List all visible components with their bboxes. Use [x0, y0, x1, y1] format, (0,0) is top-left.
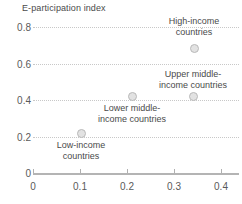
x-tick-label-0_3: 0.3 [167, 181, 181, 192]
y-tick-label-0_8: 0.8 [3, 22, 31, 33]
x-tick-mark-0_4 [221, 169, 222, 173]
y-tick-label-0: 0 [3, 168, 31, 179]
x-tick-mark-0_3 [174, 169, 175, 173]
y-tick-label-0_6: 0.6 [3, 58, 31, 69]
datapoint-upper-middle-income[interactable] [189, 92, 198, 101]
chart-container: E-participation index 0.8 0.6 0.4 0.2 0 … [0, 0, 242, 204]
chart-title: E-participation index [22, 3, 106, 13]
x-tick-mark-0_1 [80, 169, 81, 173]
annotation-lower-middle-income-line2: income countries [98, 114, 166, 125]
y-axis-labels: 0.8 0.6 0.4 0.2 0 [0, 27, 31, 173]
plot-area: High-income countries Upper middle- inco… [33, 27, 239, 173]
annotation-low-income-line2: countries [57, 151, 106, 162]
x-tick-label-0_1: 0.1 [73, 181, 87, 192]
x-tick-label-0_4: 0.4 [214, 181, 228, 192]
annotation-high-income-line1: High-income [169, 16, 220, 27]
annotation-low-income-line1: Low-income [57, 140, 106, 151]
annotation-upper-middle-income-line1: Upper middle- [159, 69, 227, 80]
gridline-0_6 [33, 64, 239, 65]
annotation-upper-middle-income: Upper middle- income countries [159, 69, 227, 91]
x-tick-mark-0_2 [127, 169, 128, 173]
x-tick-label-0_2: 0.2 [120, 181, 134, 192]
x-tick-label-0: 0 [30, 181, 36, 192]
annotation-upper-middle-income-line2: income countries [159, 80, 227, 91]
gridline-0_2 [33, 137, 239, 138]
x-tick-mark-0 [33, 169, 34, 173]
annotation-low-income: Low-income countries [57, 140, 106, 162]
datapoint-low-income[interactable] [77, 129, 86, 138]
datapoint-lower-middle-income[interactable] [128, 92, 137, 101]
y-tick-label-0_2: 0.2 [3, 131, 31, 142]
datapoint-high-income[interactable] [190, 44, 199, 53]
y-tick-label-0_4: 0.4 [3, 95, 31, 106]
annotation-lower-middle-income: Lower middle- income countries [98, 103, 166, 125]
annotation-high-income-line2: countries [169, 27, 220, 38]
annotation-high-income: High-income countries [169, 16, 220, 38]
x-axis-line [33, 173, 239, 175]
gridline-0_4 [33, 100, 239, 101]
annotation-lower-middle-income-line1: Lower middle- [98, 103, 166, 114]
